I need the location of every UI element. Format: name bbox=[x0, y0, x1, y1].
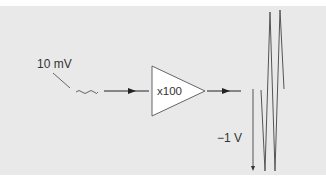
input-signal-wave bbox=[76, 91, 98, 94]
input-voltage-label: 10 mV bbox=[37, 57, 72, 71]
input-leader-line bbox=[53, 73, 70, 88]
output-arrow-head bbox=[222, 88, 230, 94]
output-signal-wave bbox=[261, 10, 284, 171]
amplifier-gain-label: x100 bbox=[157, 85, 182, 97]
output-voltage-label: −1 V bbox=[217, 131, 242, 145]
amplifier-diagram: 10 mV x100 −1 V bbox=[0, 0, 326, 181]
amplitude-indicator-head bbox=[251, 166, 255, 171]
input-arrow-head bbox=[128, 88, 136, 94]
